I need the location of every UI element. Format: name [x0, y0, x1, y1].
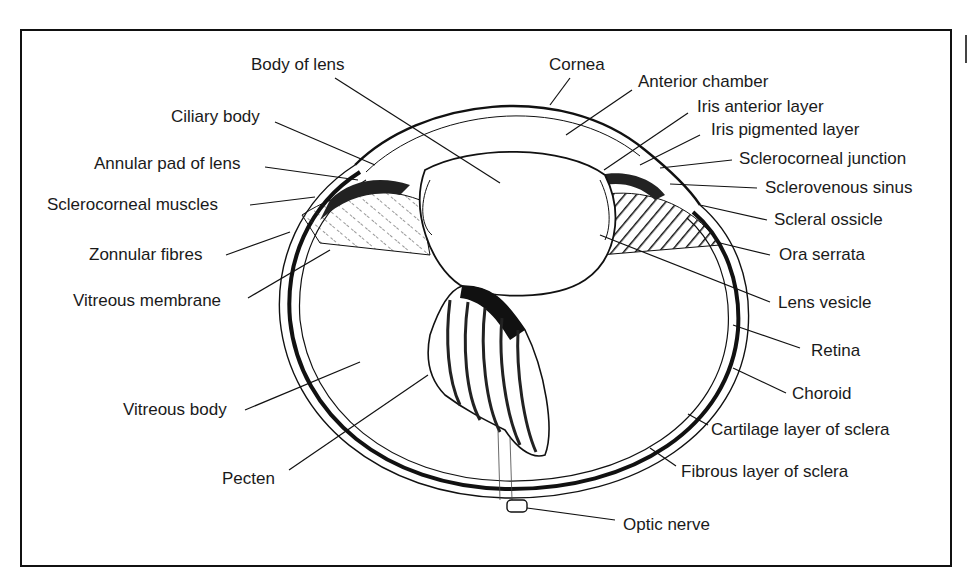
label-zonnular-fibres: Zonnular fibres: [89, 245, 202, 265]
optic-nerve-shape: [507, 500, 527, 512]
label-ciliary-body: Ciliary body: [171, 107, 260, 127]
label-ora-serrata: Ora serrata: [779, 245, 865, 265]
label-iris-anterior-layer: Iris anterior layer: [697, 97, 824, 117]
label-cartilage-layer-of-sclera: Cartilage layer of sclera: [711, 420, 890, 440]
label-vitreous-membrane: Vitreous membrane: [73, 291, 221, 311]
label-pecten: Pecten: [222, 469, 275, 489]
lens-shape: [420, 152, 616, 296]
label-sclerovenous-sinus: Sclerovenous sinus: [765, 178, 912, 198]
label-lens-vesicle: Lens vesicle: [778, 293, 872, 313]
label-sclerocorneal-junction: Sclerocorneal junction: [739, 149, 906, 169]
label-sclerocorneal-muscles: Sclerocorneal muscles: [47, 195, 218, 215]
label-anterior-chamber: Anterior chamber: [638, 72, 768, 92]
label-retina: Retina: [811, 341, 860, 361]
label-cornea: Cornea: [549, 55, 605, 75]
label-annular-pad-of-lens: Annular pad of lens: [94, 154, 241, 174]
label-vitreous-body: Vitreous body: [123, 400, 227, 420]
label-choroid: Choroid: [792, 384, 852, 404]
label-iris-pigmented-layer: Iris pigmented layer: [711, 120, 859, 140]
label-body-of-lens: Body of lens: [251, 55, 345, 75]
label-fibrous-layer-of-sclera: Fibrous layer of sclera: [681, 462, 848, 482]
eye-diagram: [0, 0, 967, 572]
pecten-shape: [428, 286, 549, 500]
label-optic-nerve: Optic nerve: [623, 515, 710, 535]
leader-lines: [226, 78, 800, 520]
label-scleral-ossicle: Scleral ossicle: [774, 210, 883, 230]
